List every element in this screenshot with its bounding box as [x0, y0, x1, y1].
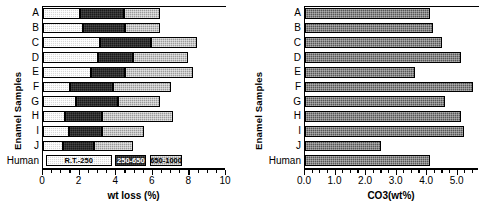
y-axis-tick-label-f: F: [242, 82, 301, 92]
x-axis-minor-tick: [124, 170, 125, 173]
x-axis-major-tick: [457, 170, 458, 175]
bar-segment-g-1: [43, 96, 76, 107]
bar-a: [305, 8, 430, 19]
bar-segment-a-3: [124, 8, 161, 19]
stacked-bar-row-i: [43, 126, 226, 137]
y-axis-tick-label-b: B: [242, 23, 301, 33]
x-axis-minor-tick: [216, 170, 217, 173]
bar-segment-f-2: [70, 82, 112, 93]
stacked-bar-row-e: [43, 67, 226, 78]
x-axis-minor-tick: [357, 170, 358, 173]
x-axis-minor-tick: [319, 170, 320, 173]
x-axis-tick-label: 8: [168, 176, 208, 186]
x-axis-major-tick: [152, 170, 153, 175]
legend-item-3: 650-1000: [150, 155, 182, 166]
y-axis-tick-label-b: B: [1, 23, 39, 33]
legend-item-2: 250-650: [115, 155, 146, 166]
x-axis-title-left: wt loss (%): [42, 191, 225, 201]
bar-segment-h-1: [43, 111, 65, 122]
bar-segment-j-2: [63, 141, 94, 152]
y-axis-tick-label-e: E: [1, 67, 39, 77]
x-axis-minor-tick: [342, 170, 343, 173]
x-axis-minor-tick: [418, 170, 419, 173]
bar-segment-e-2: [91, 67, 126, 78]
y-axis-tick-label-i: I: [242, 126, 301, 136]
x-axis-minor-tick: [88, 170, 89, 173]
x-axis-major-tick: [335, 170, 336, 175]
y-axis-tick-label-h: H: [242, 111, 301, 121]
x-axis-minor-tick: [380, 170, 381, 173]
x-axis-tick-label: 10: [205, 176, 245, 186]
figure-two-panel-bar-charts: Enamel Samples ABCDEFGHIJHuman R.T.-2502…: [0, 0, 482, 211]
panel-wt-loss: Enamel Samples ABCDEFGHIJHuman R.T.-2502…: [0, 0, 241, 211]
y-axis-tick-label-g: G: [1, 97, 39, 107]
x-axis-major-tick: [188, 170, 189, 175]
x-axis-minor-tick: [198, 170, 199, 173]
bar-human: [305, 155, 430, 166]
x-axis-minor-tick: [449, 170, 450, 173]
bar-b: [305, 23, 433, 34]
legend-label: R.T.-250: [64, 157, 92, 165]
x-axis-minor-tick: [350, 170, 351, 173]
bar-h: [305, 111, 461, 122]
x-axis-tick-label: 2: [59, 176, 99, 186]
y-axis-tick-label-d: D: [1, 53, 39, 63]
stacked-bar-row-b: [43, 23, 226, 34]
legend-item-1: R.T.-250: [46, 155, 112, 166]
legend-left: R.T.-250250-650650-1000: [43, 155, 226, 166]
plot-area-right: [304, 6, 478, 168]
y-axis-tick-label-human: Human: [1, 156, 39, 166]
x-axis-minor-tick: [207, 170, 208, 173]
x-axis-minor-tick: [472, 170, 473, 173]
bar-segment-i-2: [69, 126, 102, 137]
x-axis-minor-tick: [373, 170, 374, 173]
y-axis-tick-label-c: C: [1, 38, 39, 48]
bar-j: [305, 141, 381, 152]
bar-segment-a-2: [80, 8, 124, 19]
y-axis-tick-label-d: D: [242, 53, 301, 63]
x-axis-minor-tick: [411, 170, 412, 173]
bar-segment-e-1: [43, 67, 91, 78]
bar-c: [305, 37, 442, 48]
x-axis-minor-tick: [179, 170, 180, 173]
panel-co3: Enamel Samples ABCDEFGHIJHuman 0.01.02.0…: [241, 0, 482, 211]
bar-segment-c-2: [100, 37, 151, 48]
bar-segment-g-2: [76, 96, 118, 107]
y-axis-tick-label-a: A: [1, 8, 39, 18]
bar-segment-j-3: [94, 141, 132, 152]
bar-g: [305, 96, 445, 107]
y-axis-tick-label-c: C: [242, 38, 301, 48]
x-axis-tick-label: 5.0: [437, 176, 477, 186]
x-axis-tick-label: 0: [22, 176, 62, 186]
x-axis-minor-tick: [170, 170, 171, 173]
bar-segment-b-3: [125, 23, 160, 34]
x-axis-major-tick: [365, 170, 366, 175]
bar-segment-b-2: [83, 23, 125, 34]
stacked-bar-row-j: [43, 141, 226, 152]
x-axis-major-tick: [426, 170, 427, 175]
stacked-bar-row-f: [43, 82, 226, 93]
bar-segment-e-3: [125, 67, 193, 78]
bar-d: [305, 52, 461, 63]
bar-segment-f-1: [43, 82, 70, 93]
stacked-bar-row-g: [43, 96, 226, 107]
x-axis-minor-tick: [97, 170, 98, 173]
stacked-bar-row-d: [43, 52, 226, 63]
y-axis-tick-label-f: F: [1, 82, 39, 92]
bar-segment-j-1: [43, 141, 63, 152]
x-axis-minor-tick: [51, 170, 52, 173]
stacked-bar-row-a: [43, 8, 226, 19]
x-axis-tick-label: 4: [95, 176, 135, 186]
bar-segment-i-1: [43, 126, 69, 137]
bar-segment-c-1: [43, 37, 100, 48]
x-axis-minor-tick: [388, 170, 389, 173]
legend-label: 650-1000: [150, 157, 182, 165]
x-axis-title-right: CO3(wt%): [304, 191, 478, 201]
x-axis-major-tick: [396, 170, 397, 175]
y-axis-tick-label-j: J: [242, 141, 301, 151]
bar-segment-h-3: [102, 111, 173, 122]
y-axis-tick-label-i: I: [1, 126, 39, 136]
x-axis-minor-tick: [143, 170, 144, 173]
bar-segment-d-1: [43, 52, 98, 63]
y-axis-tick-label-a: A: [242, 8, 301, 18]
